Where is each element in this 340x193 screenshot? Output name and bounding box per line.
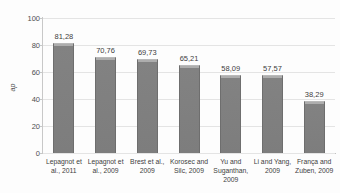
bar-slot: 69,73: [126, 18, 168, 153]
y-axis-title: ap: [9, 77, 16, 99]
bar[interactable]: 58,09: [220, 75, 241, 153]
x-axis-category-label: Korosec and Silc, 2009: [168, 157, 210, 175]
y-axis-tick-label: 40: [18, 95, 40, 104]
x-axis-category-labels: Lepagnot et al., 2011Lepagnot et al., 20…: [43, 157, 335, 184]
bar[interactable]: 81,28: [53, 43, 74, 153]
bar-slot: 70,76: [85, 18, 127, 153]
bar-slot: 57,57: [252, 18, 294, 153]
bar[interactable]: 70,76: [95, 57, 116, 153]
bar-value-label: 65,21: [180, 54, 199, 63]
bar-slot: 65,21: [168, 18, 210, 153]
y-axis-tickmark: [40, 153, 43, 154]
y-axis-tick-label: 80: [18, 41, 40, 50]
x-axis-category-label: Lepagnot et al., 2011: [43, 157, 85, 175]
bar-value-label: 58,09: [221, 64, 240, 73]
bar-value-label: 57,57: [263, 64, 282, 73]
bar-value-label: 81,28: [54, 32, 73, 41]
x-axis-category-label: Yu and Suganthan, 2009: [210, 157, 252, 184]
x-axis-category-label: Brest et al., 2009: [126, 157, 168, 175]
bar[interactable]: 65,21: [179, 65, 200, 153]
bar[interactable]: 38,29: [304, 101, 325, 153]
y-axis-tick-label: 0: [18, 149, 40, 158]
y-axis-tick-label: 60: [18, 68, 40, 77]
bar-value-label: 38,29: [305, 90, 324, 99]
x-axis-category-label: França and Zuben, 2009: [293, 157, 335, 175]
bar-value-label: 70,76: [96, 46, 115, 55]
y-axis-tick-label: 20: [18, 122, 40, 131]
bar-series: 81,2870,7669,7365,2158,0957,5738,29: [43, 18, 335, 153]
bar-slot: 81,28: [43, 18, 85, 153]
y-axis-tick-label: 100: [18, 14, 40, 23]
bar-slot: 58,09: [210, 18, 252, 153]
bar[interactable]: 57,57: [262, 75, 283, 153]
y-axis-tick-labels: 020406080100: [18, 12, 40, 157]
bar[interactable]: 69,73: [137, 59, 158, 153]
gridline: [43, 153, 335, 154]
plot-area: 81,2870,7669,7365,2158,0957,5738,29: [43, 18, 335, 153]
bar-chart: ap 020406080100 81,2870,7669,7365,2158,0…: [0, 0, 340, 193]
x-axis-category-label: Li and Yang, 2009: [252, 157, 294, 175]
x-axis-category-label: Lepagnot et al., 2009: [85, 157, 127, 175]
bar-slot: 38,29: [293, 18, 335, 153]
bar-value-label: 69,73: [138, 48, 157, 57]
